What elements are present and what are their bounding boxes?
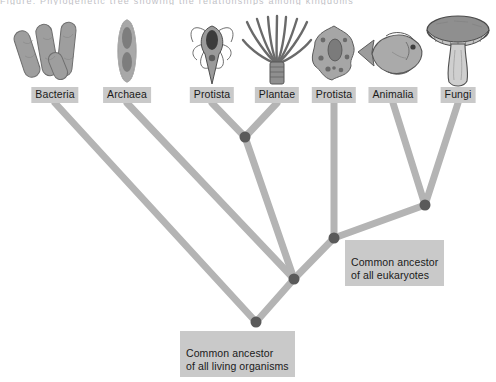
node-root [251,317,262,328]
annotation-universal-ancestor-text: Common ancestor of all living organisms [186,347,289,372]
bacteria-rods-image [13,18,97,88]
taxon-label-plantae: Plantae [255,87,299,103]
taxon-label-archaea-text: Archaea [107,88,147,100]
taxon-label-fungi: Fungi [441,87,476,103]
annotation-universal-ancestor: Common ancestor of all living organisms [180,331,295,377]
taxon-label-protista-2-text: Protista [316,88,352,100]
cycad-plant-image [241,14,313,90]
amoeboid-protist-image [307,24,361,86]
annotation-eukaryote-ancestor-text: Common ancestor of all eukaryotes [351,256,438,281]
branch-root-to-eukaryotes [256,279,294,322]
annotation-eukaryote-ancestor: Common ancestor of all eukaryotes [345,240,444,286]
taxon-label-bacteria: Bacteria [31,87,78,103]
fish-image [356,28,430,84]
branch-animalia [393,103,425,205]
branch-protista-1 [212,103,245,137]
branch-plantae [245,103,277,137]
taxon-label-protista-1: Protista [190,87,234,103]
archaea-cell-image [112,18,142,88]
taxon-label-archaea: Archaea [103,87,151,103]
taxon-label-protista-2: Protista [312,87,356,103]
node-protista-plantae [240,132,251,143]
taxon-label-fungi-text: Fungi [445,88,472,100]
branch-archaea [127,103,294,279]
phylogenetic-tree-figure: Figure: Phylogenetic tree showing the re… [0,0,496,382]
branch-euk-lower-to-euk [294,238,334,279]
taxon-label-protista-1-text: Protista [194,88,230,100]
taxon-label-bacteria-text: Bacteria [35,88,74,100]
node-euk-lower [289,274,300,285]
flagellate-protist-image [181,14,243,90]
node-animalia-fungi [420,200,431,211]
taxon-label-animalia: Animalia [368,87,417,103]
mushroom-image [424,12,492,92]
branch-animalia-fungi-to-euk [334,205,425,238]
taxon-label-animalia-text: Animalia [372,88,413,100]
taxon-label-plantae-text: Plantae [259,88,295,100]
node-eukaryotes [329,233,340,244]
branch-fungi [425,103,458,205]
